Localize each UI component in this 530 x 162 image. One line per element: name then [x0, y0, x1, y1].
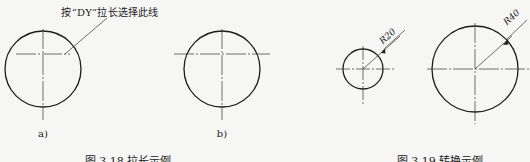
centerlines-a — [16, 29, 70, 120]
centerlines-r20 — [336, 46, 396, 104]
annotation-label: 按“DY”拉长选择此线 — [61, 4, 158, 19]
subfigure-label-a: a) — [38, 128, 48, 139]
figure-caption-left: 图 3.18 拉长示例 — [85, 152, 172, 162]
centerlines-r40 — [427, 23, 530, 124]
figure-caption-right: 图 3.19 转换示例 — [397, 152, 484, 162]
leader-line — [65, 18, 107, 54]
centerlines-b — [174, 29, 270, 120]
drawing-canvas: 按“DY”拉长选择此线 a) b) 图 3.18 拉长示例 图 3.19 转换示… — [0, 0, 530, 162]
subfigure-label-b: b) — [217, 128, 227, 139]
